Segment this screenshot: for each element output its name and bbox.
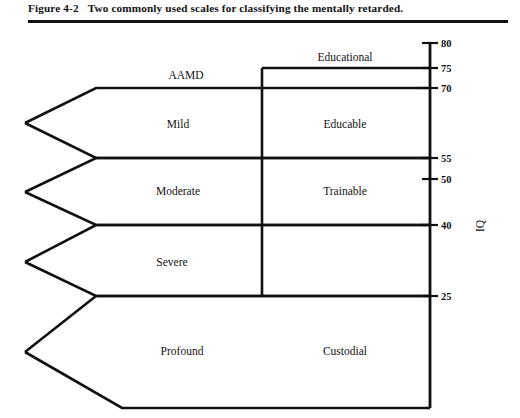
band-severe-top-edge (25, 225, 430, 262)
band-moderate-top-edge (25, 158, 430, 192)
iq-tick-label-25: 25 (441, 291, 452, 302)
iq-tick-label-75: 75 (441, 63, 452, 74)
band-profound-bottom-edge (25, 352, 430, 408)
educational-column (262, 68, 430, 296)
iq-axis: 80 75 70 55 50 40 25 IQ (422, 38, 486, 408)
aamd-scale-header: AAMD (168, 69, 203, 81)
educational-scale-header: Educational (318, 51, 373, 63)
band-label-trainable: Trainable (323, 185, 367, 197)
band-label-moderate: Moderate (156, 185, 200, 197)
band-mild-top-edge (25, 88, 430, 123)
iq-axis-title: IQ (474, 219, 486, 232)
iq-tick-label-80: 80 (441, 38, 452, 49)
band-severe (25, 225, 430, 296)
iq-tick-label-70: 70 (441, 83, 452, 94)
band-label-mild: Mild (167, 118, 190, 130)
band-label-severe: Severe (156, 256, 187, 268)
band-label-custodial: Custodial (323, 345, 367, 357)
classification-scales-diagram: 80 75 70 55 50 40 25 IQ AAMD Educational… (0, 0, 520, 418)
band-mild-bottom-edge (25, 123, 430, 158)
band-mild (25, 88, 430, 158)
iq-tick-label-40: 40 (441, 220, 452, 231)
band-label-educable: Educable (324, 118, 367, 130)
band-severe-bottom-edge (25, 262, 430, 296)
band-profound-top-edge (25, 296, 430, 352)
iq-tick-label-55: 55 (441, 153, 452, 164)
band-label-profound: Profound (161, 345, 204, 357)
band-moderate-bottom-edge (25, 192, 430, 225)
iq-tick-label-50: 50 (441, 174, 452, 185)
band-profound (25, 296, 430, 408)
band-moderate (25, 158, 430, 225)
